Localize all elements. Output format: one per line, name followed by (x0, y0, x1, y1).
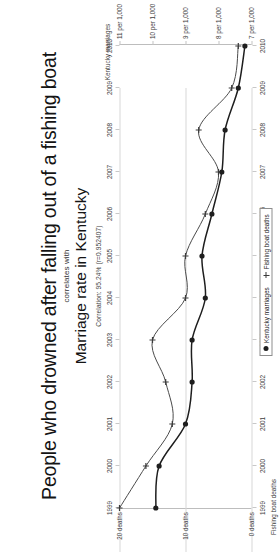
x-tick-2001-top (116, 423, 120, 424)
x-tick-2007-bottom (253, 171, 257, 172)
x-tick-2005-top (116, 255, 120, 256)
correlation-annotation: Correlation: 95.24% (r=0.952407) (95, 0, 102, 552)
x-tick-2006-bottom (253, 213, 257, 214)
x-label-2006-top: 2006 (106, 207, 113, 221)
x-tick-2003-top (116, 339, 120, 340)
x-tick-2002-bottom (253, 381, 257, 382)
right-axis-tick-10: 10 per 1,000 (149, 4, 156, 39)
rotated-chart-wrapper: People who drowned after falling out of … (32, 0, 258, 552)
x-tick-1999-bottom (253, 507, 257, 508)
gridline-top (120, 88, 121, 552)
x-tick-2008-top (116, 129, 120, 130)
series-markers-fishing-boat-deaths (117, 43, 242, 511)
right-axis-tick-7: 7 per 1,000 (248, 7, 255, 39)
gridline-bottom (252, 88, 253, 552)
left-axis-tick-10: 10 deaths (182, 512, 189, 552)
x-label-2005-top: 2005 (106, 249, 113, 263)
x-tick-2007-top (116, 171, 120, 172)
chart-canvas: People who drowned after falling out of … (32, 0, 258, 552)
x-label-2002-top: 2002 (106, 375, 113, 389)
left-axis-tick-0: 0 deaths (248, 512, 255, 552)
gridline-middle (186, 88, 187, 552)
x-tick-2000-bottom (253, 465, 257, 466)
series-line-fishing-boat-deaths (120, 46, 239, 508)
right-axis-tick-8: 8 per 1,000 (215, 7, 222, 39)
x-tick-2009-top (116, 87, 120, 88)
x-label-2003-top: 2003 (106, 333, 113, 347)
right-axis-tick-9: 9 per 1,000 (182, 7, 189, 39)
x-tick-2010-top (116, 45, 120, 46)
series-line-kentucky-marriages (156, 46, 245, 508)
chart-title-connector: correlates with (62, 0, 71, 552)
x-label-2000-top: 2000 (106, 459, 113, 473)
x-tick-2004-top (116, 297, 120, 298)
x-tick-1999-top (116, 507, 120, 508)
x-tick-2005-bottom (253, 255, 257, 256)
x-label-2001-top: 2001 (106, 417, 113, 431)
right-axis-tick-mark-11 (120, 41, 121, 45)
series-markers-kentucky-marriages (153, 43, 247, 510)
x-label-2009-top: 2009 (106, 81, 113, 95)
right-axis-tick-11: 11 per 1,000 (116, 4, 123, 39)
x-label-2007-top: 2007 (106, 165, 113, 179)
x-tick-2009-bottom (253, 87, 257, 88)
right-axis-tick-mark-8 (219, 41, 220, 45)
x-tick-2006-top (116, 213, 120, 214)
x-label-2010-top: 2010 (106, 39, 113, 53)
left-axis-tick-20: 20 deaths (116, 512, 123, 552)
chart-title-line-2: Marriage rate in Kentucky (72, 0, 90, 552)
right-axis-tick-mark-9 (186, 41, 187, 45)
x-tick-2000-top (116, 465, 120, 466)
x-label-2008-top: 2008 (106, 123, 113, 137)
x-tick-2001-bottom (253, 423, 257, 424)
x-label-2004-top: 2004 (106, 291, 113, 305)
x-label-1999-top: 1999 (106, 501, 113, 515)
x-tick-2010-bottom (253, 45, 257, 46)
x-tick-2003-bottom (253, 339, 257, 340)
right-axis-tick-mark-10 (153, 41, 154, 45)
x-tick-2008-bottom (253, 129, 257, 130)
x-tick-2002-top (116, 381, 120, 382)
x-tick-2004-bottom (253, 297, 257, 298)
chart-title-line-1: People who drowned after falling out of … (38, 0, 61, 552)
